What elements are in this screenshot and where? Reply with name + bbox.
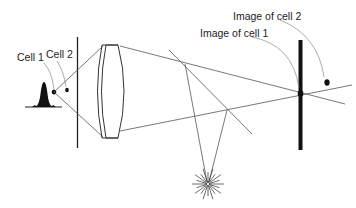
ray-lens-bottom-to-image <box>120 85 352 131</box>
ray-lens-top-to-image <box>120 46 345 104</box>
objective-lens <box>98 45 125 138</box>
cell2-leader <box>57 61 66 87</box>
ray-to-starburst-right <box>209 110 227 182</box>
ray-cell-to-lens-bottom <box>54 92 103 137</box>
diagonal-beam <box>169 50 252 134</box>
image-cell2-label: Image of cell 2 <box>233 11 301 22</box>
optical-diagram <box>0 0 356 208</box>
image-cell1-leader <box>252 37 299 88</box>
cell1-label: Cell 1 <box>17 52 44 63</box>
image-cell1-dot <box>298 90 304 98</box>
image-cell1-label: Image of cell 1 <box>200 28 268 39</box>
cell2-label: Cell 2 <box>46 49 73 60</box>
image-plane-aperture <box>298 40 304 150</box>
image-cell2-dot <box>324 79 329 86</box>
cell2-dot <box>65 88 69 92</box>
ray-to-starburst-left <box>185 64 207 182</box>
